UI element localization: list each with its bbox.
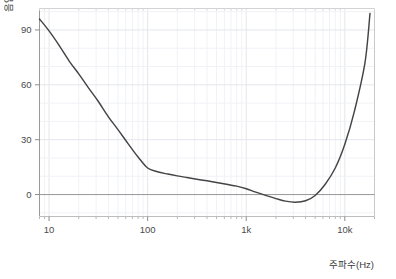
y-tick-label: 60 [21,79,32,90]
x-tick-label: 10k [337,224,353,235]
y-tick-label: 30 [21,134,32,145]
y-tick-label: 0 [26,189,31,200]
y-axis-title: 음압(dB) [3,0,14,12]
y-tick-label: 90 [21,24,32,35]
sound-pressure-threshold-chart: 101001k10k 0306090 주파수(Hz) 음압(dB) [0,0,396,279]
x-axis-title: 주파수(Hz) [329,259,374,270]
x-tick-label: 10 [44,224,55,235]
x-tick-label: 100 [140,224,156,235]
chart-container: 101001k10k 0306090 주파수(Hz) 음압(dB) [0,0,396,279]
x-tick-label: 1k [241,224,251,235]
